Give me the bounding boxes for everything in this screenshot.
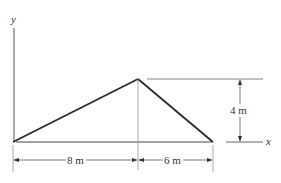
dimension-4m: 4 m bbox=[230, 105, 247, 116]
dimension-8m: 8 m bbox=[67, 155, 84, 166]
right-member bbox=[138, 79, 213, 142]
arrow-left-icon bbox=[13, 158, 19, 162]
truss-diagram: y x 8 m 6 m 4 m bbox=[0, 0, 281, 183]
arrow-left-icon bbox=[138, 158, 144, 162]
arrow-right-icon bbox=[207, 158, 213, 162]
arrow-up-icon bbox=[238, 79, 242, 85]
y-axis-label: y bbox=[11, 14, 16, 25]
arrow-down-icon bbox=[238, 136, 242, 142]
x-axis-label: x bbox=[266, 136, 271, 147]
left-member bbox=[13, 79, 138, 142]
dimension-6m: 6 m bbox=[164, 155, 181, 166]
arrow-right-icon bbox=[132, 158, 138, 162]
diagram-drawing bbox=[0, 0, 281, 183]
